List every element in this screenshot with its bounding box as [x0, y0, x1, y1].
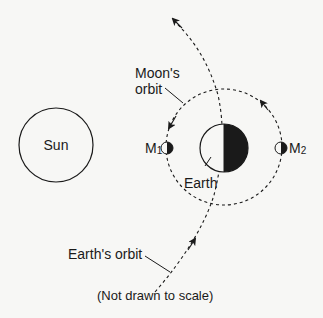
earth-label: Earth	[184, 175, 217, 191]
sun: Sun	[19, 108, 93, 182]
moon-m1: M1	[145, 140, 173, 156]
sun-label: Sun	[44, 137, 69, 153]
earth-orbit-arrow-bottom	[188, 239, 195, 250]
moons-orbit-leader-line	[165, 88, 183, 103]
moons-orbit-label: Moon's orbit	[135, 65, 183, 103]
moon-orbit-arrow-right	[261, 101, 268, 110]
earths-orbit-label-text: Earth's orbit	[68, 246, 142, 262]
earths-orbit-leader-line	[145, 256, 170, 272]
earth: Earth	[184, 124, 248, 191]
moon-m1-label: M1	[145, 140, 163, 156]
moon-m2: M2	[275, 140, 307, 156]
moons-orbit-label-line2: orbit	[135, 81, 162, 97]
earth-night-side	[224, 124, 248, 172]
moons-orbit-label-line1: Moon's	[135, 65, 180, 81]
scale-note: (Not drawn to scale)	[97, 288, 213, 303]
sun-earth-moon-diagram: Sun Earth M1 M2 Moon's orbit	[0, 0, 323, 318]
earth-orbit-arrow-top	[173, 19, 182, 28]
moon-orbit-arrow-left	[169, 116, 176, 128]
moon-m2-label: M2	[289, 140, 307, 156]
earths-orbit-label: Earth's orbit	[68, 246, 170, 272]
